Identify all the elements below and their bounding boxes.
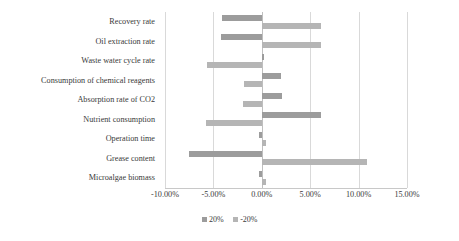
- legend-label: 20%: [209, 215, 224, 224]
- category-label: Absorption rate of CO2: [77, 90, 155, 110]
- legend-swatch-icon: [202, 217, 207, 222]
- bar-row: [165, 12, 407, 32]
- value-axis-line: [165, 188, 407, 189]
- legend-label: -20%: [240, 215, 257, 224]
- category-axis-labels: Recovery rateOil extraction rateWaste wa…: [0, 12, 160, 188]
- bar-neg20pct: [206, 120, 262, 126]
- bar-neg20pct: [262, 179, 266, 185]
- category-label: Recovery rate: [109, 12, 155, 32]
- bar-20pct: [262, 54, 264, 60]
- bar-row: [165, 71, 407, 91]
- axis-tick-label: 10.00%: [346, 190, 371, 199]
- bar-20pct: [262, 93, 282, 99]
- legend-item[interactable]: -20%: [233, 215, 258, 224]
- bar-20pct: [259, 171, 262, 177]
- legend-item[interactable]: 20%: [202, 215, 224, 224]
- category-label: Nutrient consumption: [83, 110, 155, 130]
- axis-tick-label: -5.00%: [201, 190, 225, 199]
- bar-row: [165, 90, 407, 110]
- axis-tick-label: -10.00%: [151, 190, 179, 199]
- axis-tick-label: 5.00%: [300, 190, 321, 199]
- category-label: Operation time: [106, 129, 155, 149]
- bar-row: [165, 149, 407, 169]
- bar-neg20pct: [207, 62, 262, 68]
- bar-20pct: [222, 15, 262, 21]
- bar-row: [165, 51, 407, 71]
- bar-row: [165, 110, 407, 130]
- category-label: Waste water cycle rate: [81, 51, 155, 71]
- axis-tick-label: 0.00%: [251, 190, 272, 199]
- bar-neg20pct: [262, 159, 368, 165]
- bar-20pct: [259, 132, 262, 138]
- axis-tick-label: 15.00%: [394, 190, 419, 199]
- plot-area: [165, 12, 407, 188]
- category-label: Oil extraction rate: [95, 32, 155, 52]
- chart-legend: 20%-20%: [0, 215, 459, 224]
- gridline-15: [407, 12, 408, 188]
- bar-neg20pct: [262, 140, 266, 146]
- bar-row: [165, 168, 407, 188]
- bar-neg20pct: [262, 42, 321, 48]
- category-label: Microalgae biomass: [89, 168, 155, 188]
- bar-neg20pct: [262, 23, 321, 29]
- bar-20pct: [189, 151, 262, 157]
- bar-neg20pct: [244, 81, 261, 87]
- tornado-chart: Recovery rateOil extraction rateWaste wa…: [0, 0, 459, 241]
- bar-20pct: [262, 73, 281, 79]
- category-label: Consumption of chemical reagents: [41, 71, 155, 91]
- bar-20pct: [262, 112, 321, 118]
- bar-row: [165, 129, 407, 149]
- legend-swatch-icon: [233, 217, 238, 222]
- bar-20pct: [221, 34, 262, 40]
- category-label: Grease content: [106, 149, 155, 169]
- bar-row: [165, 32, 407, 52]
- bar-neg20pct: [243, 101, 261, 107]
- bar-rows: [165, 12, 407, 188]
